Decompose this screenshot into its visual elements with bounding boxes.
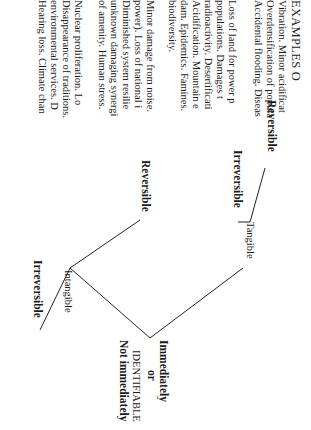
example-line: environmental services. D	[48, 0, 60, 110]
example-line: Diminished system resilie	[120, 0, 132, 109]
example-line: Vibration. Minor acidificat	[276, 0, 288, 113]
example-line: Disappearance of traditions.	[60, 0, 72, 118]
rotated-diagram-page: EXAMPLES O Vibration. Minor acidificat O…	[0, 0, 311, 430]
intangible-label: Intangible	[62, 270, 74, 313]
example-line: power). Loss of national i	[132, 0, 144, 108]
example-line: Nuclear proliferation. Lo	[72, 0, 84, 105]
example-line: dam. Epidemics. Famines.	[178, 0, 190, 111]
example-line: Acidification. Mountain e	[190, 0, 202, 109]
timing-not-immediately: Not immediately	[118, 340, 130, 421]
root-identifiable: IDENTIFIABLE	[130, 350, 142, 422]
timing-immediately: Immediately	[158, 340, 170, 402]
intangible-reversible-label: Reversible	[140, 160, 152, 212]
tangible-reversible-label: Reversible	[266, 100, 278, 152]
example-line: Accidental flooding. Diseas	[252, 0, 264, 117]
example-line: Hearing loss. Climate chan	[36, 0, 48, 114]
tangible-irreversible-label: Irreversible	[232, 150, 244, 208]
example-line: Loss of land for power p	[226, 0, 238, 104]
tangible-label: Tangible	[244, 222, 256, 259]
intangible-irreversible-label: Irreversible	[32, 260, 44, 318]
example-line: Minor damage from noise.	[144, 0, 156, 112]
example-line: unknown damaging synergi	[108, 0, 120, 116]
timing-or: or	[146, 370, 158, 381]
example-line: of amenity. Human stress.	[96, 0, 108, 109]
example-line: populations. Damages t	[214, 0, 226, 99]
example-line: radioactivity. Desertificati	[202, 0, 214, 110]
example-line: biodiversity.	[166, 0, 178, 52]
examples-header: EXAMPLES O	[290, 0, 302, 81]
